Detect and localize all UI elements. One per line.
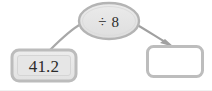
input-box: 41.2 bbox=[12, 50, 76, 81]
input-to-operation-connector bbox=[50, 24, 81, 50]
input-value: 41.2 bbox=[29, 57, 60, 76]
output-box bbox=[148, 47, 203, 77]
output-box-shape[interactable] bbox=[148, 47, 203, 77]
diagram-canvas: 41.2 ÷ 8 bbox=[0, 0, 212, 91]
bottom-divider bbox=[0, 90, 212, 91]
operation-label: ÷ 8 bbox=[98, 14, 119, 30]
operation-oval: ÷ 8 bbox=[79, 3, 139, 39]
operation-to-output-connector bbox=[137, 25, 167, 43]
function-machine-diagram: 41.2 ÷ 8 bbox=[0, 0, 212, 91]
